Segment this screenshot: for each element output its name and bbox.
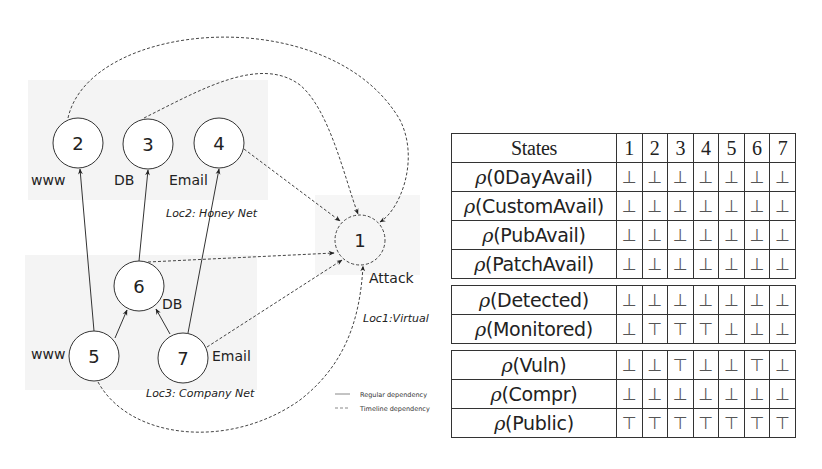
cell: ⊥ <box>642 380 668 409</box>
location-label-loc2: Loc2: Honey Net <box>166 207 258 220</box>
cell: ⊥ <box>770 286 796 315</box>
header-states: States <box>452 134 617 163</box>
header-col-7: 7 <box>770 134 796 163</box>
cell: ⊤ <box>744 409 770 438</box>
table-row: ρ(Public) ⊤ ⊤ ⊤ ⊤ ⊤ ⊤ ⊤ <box>452 409 796 438</box>
cell: ⊥ <box>642 221 668 250</box>
row-label: ρ(0DayAvail) <box>452 163 617 192</box>
cell: ⊤ <box>719 409 745 438</box>
svg-text:3: 3 <box>142 134 153 155</box>
cell: ⊥ <box>617 380 643 409</box>
table-row: ρ(Compr) ⊥ ⊥ ⊥ ⊥ ⊥ ⊥ ⊥ <box>452 380 796 409</box>
cell: ⊥ <box>617 315 643 344</box>
cell: ⊥ <box>617 221 643 250</box>
legend: Regular dependency Timeline dependency <box>335 391 430 413</box>
legend-regular-label: Regular dependency <box>360 391 427 399</box>
cell: ⊥ <box>668 163 694 192</box>
cell: ⊥ <box>642 351 668 380</box>
table-row: ρ(PatchAvail) ⊥ ⊥ ⊥ ⊥ ⊥ ⊥ ⊥ <box>452 250 796 279</box>
node-label-6: DB <box>162 296 182 312</box>
header-col-3: 3 <box>668 134 694 163</box>
cell: ⊥ <box>693 221 719 250</box>
header-col-6: 6 <box>744 134 770 163</box>
cell: ⊥ <box>668 286 694 315</box>
cell: ⊥ <box>693 351 719 380</box>
location-label-loc1: Loc1:Virtual <box>363 312 429 325</box>
table-group-availability: States 1 2 3 4 5 6 7 ρ(0DayAvail) ⊥ ⊥ ⊥ … <box>451 133 796 279</box>
table-row: ρ(0DayAvail) ⊥ ⊥ ⊥ ⊥ ⊥ ⊥ ⊥ <box>452 163 796 192</box>
cell: ⊤ <box>770 409 796 438</box>
row-label: ρ(PubAvail) <box>452 221 617 250</box>
cell: ⊤ <box>617 409 643 438</box>
svg-text:5: 5 <box>88 346 99 367</box>
cell: ⊥ <box>770 315 796 344</box>
cell: ⊥ <box>719 163 745 192</box>
cell: ⊥ <box>744 221 770 250</box>
header-col-2: 2 <box>642 134 668 163</box>
cell: ⊥ <box>770 351 796 380</box>
cell: ⊥ <box>693 163 719 192</box>
node-label-3: DB <box>114 172 134 188</box>
row-label: ρ(Vuln) <box>452 351 617 380</box>
row-label: ρ(Monitored) <box>452 315 617 344</box>
row-label: ρ(CustomAvail) <box>452 192 617 221</box>
row-label: ρ(Compr) <box>452 380 617 409</box>
cell: ⊥ <box>642 286 668 315</box>
svg-text:1: 1 <box>354 230 365 251</box>
node-5: 5 <box>69 331 119 381</box>
cell: ⊥ <box>719 380 745 409</box>
cell: ⊤ <box>668 409 694 438</box>
cell: ⊤ <box>642 409 668 438</box>
cell: ⊥ <box>693 250 719 279</box>
cell: ⊤ <box>668 315 694 344</box>
loc1-region <box>315 195 420 275</box>
node-6: 6 <box>114 261 164 311</box>
cell: ⊤ <box>693 409 719 438</box>
cell: ⊤ <box>668 351 694 380</box>
cell: ⊤ <box>744 351 770 380</box>
cell: ⊥ <box>668 221 694 250</box>
cell: ⊥ <box>668 192 694 221</box>
table-row: ρ(Monitored) ⊥ ⊤ ⊤ ⊤ ⊥ ⊥ ⊥ <box>452 315 796 344</box>
cell: ⊥ <box>693 380 719 409</box>
svg-text:6: 6 <box>133 276 144 297</box>
legend-timeline-label: Timeline dependency <box>359 405 430 413</box>
network-diagram: 1 2 3 4 5 6 7 Attack www DB Email www DB… <box>0 0 450 469</box>
cell: ⊥ <box>719 221 745 250</box>
table-group-detection: ρ(Detected) ⊥ ⊥ ⊥ ⊥ ⊥ ⊥ ⊥ ρ(Monitored) ⊥… <box>451 285 796 344</box>
node-label-5: www <box>31 346 65 362</box>
node-label-7: Email <box>212 348 251 364</box>
cell: ⊥ <box>719 351 745 380</box>
node-2: 2 <box>53 118 103 168</box>
cell: ⊥ <box>744 192 770 221</box>
cell: ⊤ <box>642 315 668 344</box>
svg-text:4: 4 <box>213 133 224 154</box>
node-label-1: Attack <box>369 270 415 286</box>
svg-text:7: 7 <box>177 348 188 369</box>
row-label: ρ(Public) <box>452 409 617 438</box>
cell: ⊥ <box>744 286 770 315</box>
node-7: 7 <box>158 333 208 383</box>
cell: ⊥ <box>617 192 643 221</box>
cell: ⊥ <box>693 192 719 221</box>
cell: ⊥ <box>744 163 770 192</box>
cell: ⊥ <box>770 221 796 250</box>
cell: ⊥ <box>668 380 694 409</box>
cell: ⊥ <box>744 315 770 344</box>
cell: ⊥ <box>642 250 668 279</box>
table-row: ρ(PubAvail) ⊥ ⊥ ⊥ ⊥ ⊥ ⊥ ⊥ <box>452 221 796 250</box>
table-row: ρ(Detected) ⊥ ⊥ ⊥ ⊥ ⊥ ⊥ ⊥ <box>452 286 796 315</box>
cell: ⊥ <box>770 380 796 409</box>
states-table: States 1 2 3 4 5 6 7 ρ(0DayAvail) ⊥ ⊥ ⊥ … <box>451 133 796 444</box>
table-row: ρ(CustomAvail) ⊥ ⊥ ⊥ ⊥ ⊥ ⊥ ⊥ <box>452 192 796 221</box>
table-group-status: ρ(Vuln) ⊥ ⊥ ⊤ ⊥ ⊥ ⊤ ⊥ ρ(Compr) ⊥ ⊥ ⊥ ⊥ ⊥… <box>451 350 796 438</box>
cell: ⊥ <box>617 286 643 315</box>
cell: ⊥ <box>668 250 694 279</box>
cell: ⊥ <box>744 380 770 409</box>
cell: ⊥ <box>642 163 668 192</box>
cell: ⊥ <box>770 250 796 279</box>
row-label: ρ(PatchAvail) <box>452 250 617 279</box>
cell: ⊥ <box>744 250 770 279</box>
cell: ⊤ <box>693 315 719 344</box>
node-4: 4 <box>194 118 244 168</box>
